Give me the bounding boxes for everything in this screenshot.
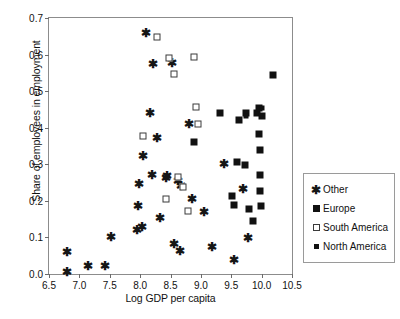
- data-point: ✱: [134, 182, 144, 188]
- data-point: ✱: [175, 249, 185, 255]
- x-axis-tick: [262, 274, 263, 278]
- legend-item-other: ✱ Other: [309, 180, 390, 199]
- x-axis-tick-label: 8.0: [133, 280, 147, 291]
- legend-item-europe: Europe: [309, 199, 390, 218]
- data-point: [154, 34, 161, 41]
- data-point: [259, 105, 264, 110]
- data-point: ✱: [106, 234, 116, 240]
- plot-area: 0.00.10.20.30.40.50.60.76.57.07.58.08.59…: [48, 17, 293, 275]
- x-axis-tick: [110, 274, 111, 278]
- y-axis-tick: [45, 18, 49, 19]
- y-axis-tick: [45, 128, 49, 129]
- y-axis-tick-label: 0.2: [29, 195, 43, 206]
- data-point: ✱: [152, 135, 162, 141]
- legend-label-south-america: South America: [323, 222, 388, 233]
- data-point: ✱: [155, 216, 165, 222]
- legend-item-north-america: North America: [309, 237, 390, 256]
- data-point: ✱: [238, 187, 248, 193]
- data-point: [234, 159, 241, 166]
- data-point: [194, 121, 201, 128]
- data-point: [246, 205, 253, 212]
- y-axis-tick: [45, 164, 49, 165]
- x-axis-tick-label: 6.5: [42, 280, 56, 291]
- small-filled-square-marker-icon: [309, 244, 323, 249]
- data-point: [190, 138, 197, 145]
- data-point: [190, 54, 197, 61]
- data-point: ✱: [83, 263, 93, 269]
- y-axis-tick-label: 0.4: [29, 122, 43, 133]
- data-point: ✱: [207, 244, 217, 250]
- data-point: [179, 183, 186, 190]
- data-point: ✱: [148, 62, 158, 68]
- x-axis-tick-label: 7.5: [103, 280, 117, 291]
- data-point: [257, 171, 264, 178]
- data-point: [256, 131, 263, 138]
- y-axis-tick-label: 0.0: [29, 269, 43, 280]
- y-axis-tick: [45, 55, 49, 56]
- data-point: ✱: [133, 204, 143, 210]
- data-point: ✱: [147, 173, 157, 179]
- data-point: ✱: [187, 196, 197, 202]
- data-point: [269, 71, 276, 78]
- x-axis-tick: [292, 274, 293, 278]
- x-axis-tick: [231, 274, 232, 278]
- x-axis-tick-label: 10.5: [282, 280, 301, 291]
- data-point: ✱: [243, 236, 253, 242]
- data-point: ✱: [62, 270, 72, 276]
- x-axis-tick-label: 10.0: [252, 280, 271, 291]
- y-axis-tick: [45, 201, 49, 202]
- chart-legend: ✱ Other Europe South America North Ameri…: [303, 173, 395, 263]
- data-point: ✱: [137, 225, 147, 231]
- data-point: ✱: [184, 122, 194, 128]
- data-point: [244, 114, 249, 119]
- data-point: ✱: [138, 154, 148, 160]
- filled-square-marker-icon: [309, 205, 323, 212]
- data-point: ✱: [162, 173, 172, 179]
- y-axis-tick-label: 0.1: [29, 232, 43, 243]
- x-axis-tick-label: 7.0: [72, 280, 86, 291]
- legend-label-other: Other: [323, 184, 348, 195]
- data-point: [217, 110, 224, 117]
- data-point: [258, 203, 265, 210]
- data-point: [235, 117, 242, 124]
- x-axis-tick: [79, 274, 80, 278]
- data-point: [231, 201, 238, 208]
- data-point: ✱: [219, 162, 229, 168]
- x-axis-tick: [140, 274, 141, 278]
- data-point: [193, 103, 200, 110]
- data-point: [258, 113, 265, 120]
- data-point: [162, 196, 169, 203]
- data-point: [174, 174, 181, 181]
- legend-item-south-america: South America: [309, 218, 390, 237]
- y-axis-tick: [45, 237, 49, 238]
- data-point: [166, 55, 173, 62]
- x-axis-tick: [171, 274, 172, 278]
- x-axis-tick-label: 9.5: [224, 280, 238, 291]
- legend-label-north-america: North America: [323, 241, 386, 252]
- legend-label-europe: Europe: [323, 203, 355, 214]
- data-point: [256, 146, 263, 153]
- data-point: [249, 217, 256, 224]
- data-point: ✱: [229, 258, 239, 264]
- data-point: ✱: [141, 30, 151, 36]
- asterisk-marker-icon: ✱: [309, 186, 323, 194]
- data-point: ✱: [100, 263, 110, 269]
- y-axis-tick-label: 0.7: [29, 13, 43, 24]
- x-axis-tick: [201, 274, 202, 278]
- data-point: ✱: [145, 111, 155, 117]
- data-point: [140, 132, 147, 139]
- y-axis-tick-label: 0.5: [29, 86, 43, 97]
- plot-inner: 0.00.10.20.30.40.50.60.76.57.07.58.08.59…: [49, 18, 292, 274]
- data-point: [184, 208, 191, 215]
- data-point: [170, 70, 177, 77]
- x-axis-tick-label: 8.5: [164, 280, 178, 291]
- x-axis-tick: [49, 274, 50, 278]
- y-axis-tick-label: 0.3: [29, 159, 43, 170]
- data-point: ✱: [62, 250, 72, 256]
- x-axis-tick-label: 9.0: [194, 280, 208, 291]
- data-point: [241, 162, 248, 169]
- data-point: ✱: [199, 209, 209, 215]
- y-axis-tick-label: 0.6: [29, 49, 43, 60]
- data-point: [257, 187, 264, 194]
- data-point: [229, 193, 236, 200]
